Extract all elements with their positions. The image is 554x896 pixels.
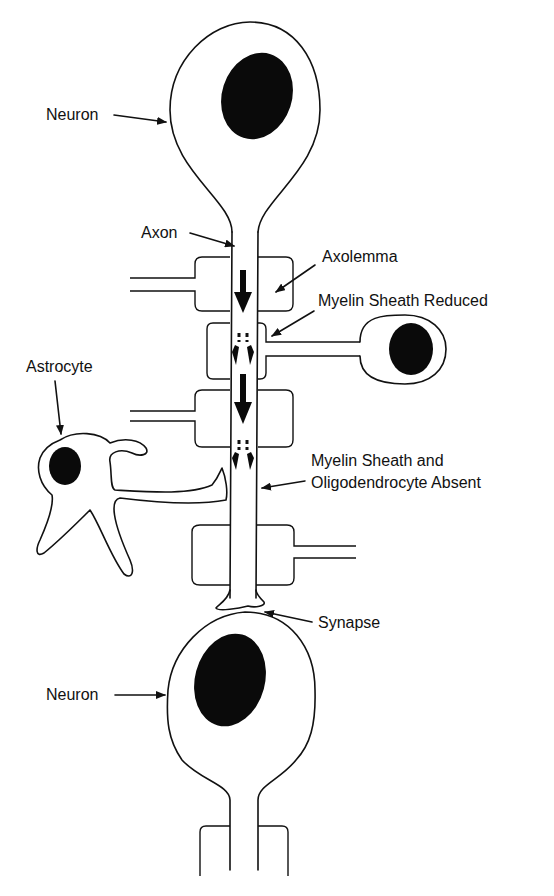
top-neuron-nucleus bbox=[210, 43, 304, 148]
astrocyte bbox=[37, 434, 227, 577]
label-myelin-absent-line2: Oligodendrocyte Absent bbox=[311, 474, 481, 491]
label-axolemma: Axolemma bbox=[276, 248, 398, 292]
myelin-segment-2-reduced bbox=[207, 315, 446, 384]
label-myelin-absent: Myelin Sheath and Oligodendrocyte Absent bbox=[262, 452, 481, 491]
bottom-neuron-nucleus bbox=[184, 626, 276, 735]
label-axolemma-text: Axolemma bbox=[322, 248, 398, 265]
myelin-segment-4 bbox=[192, 525, 356, 585]
axon-terminal bbox=[216, 590, 264, 610]
label-axon: Axon bbox=[141, 224, 234, 246]
label-neuron-bottom-text: Neuron bbox=[46, 686, 98, 703]
top-neuron bbox=[170, 22, 320, 232]
label-synapse-text: Synapse bbox=[318, 614, 380, 631]
astrocyte-nucleus bbox=[49, 447, 81, 485]
label-axon-text: Axon bbox=[141, 224, 177, 241]
arrow-icon bbox=[272, 311, 314, 336]
arrow-icon bbox=[55, 381, 61, 434]
conduction-arrows bbox=[232, 270, 254, 470]
label-myelin-reduced: Myelin Sheath Reduced bbox=[272, 292, 488, 336]
bottom-neuron bbox=[167, 612, 315, 876]
label-myelin-absent-line1: Myelin Sheath and bbox=[311, 452, 444, 469]
myelin-segment-1 bbox=[130, 257, 293, 311]
diagram-canvas: Neuron Axon Axolemma Myelin Sheath Reduc… bbox=[0, 0, 554, 896]
arrow-icon bbox=[262, 481, 305, 488]
label-neuron-top: Neuron bbox=[46, 106, 166, 123]
oligodendrocyte-nucleus bbox=[389, 323, 433, 375]
arrow-icon bbox=[276, 265, 315, 292]
label-myelin-reduced-text: Myelin Sheath Reduced bbox=[318, 292, 488, 309]
label-neuron-bottom: Neuron bbox=[46, 686, 165, 703]
arrow-icon bbox=[114, 115, 166, 122]
label-neuron-top-text: Neuron bbox=[46, 106, 98, 123]
label-astrocyte-text: Astrocyte bbox=[26, 358, 93, 375]
myelin-segment-3 bbox=[130, 390, 293, 447]
arrow-icon bbox=[190, 233, 234, 246]
label-astrocyte: Astrocyte bbox=[26, 358, 93, 434]
